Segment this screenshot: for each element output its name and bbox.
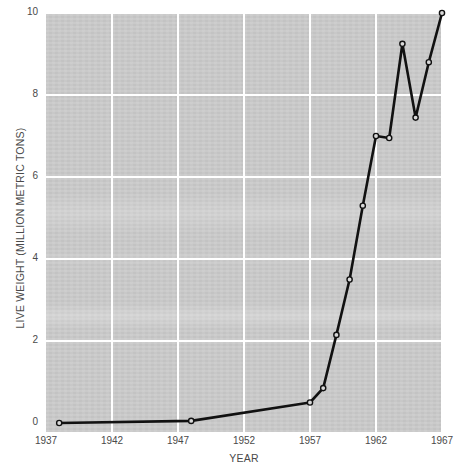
x-tick-label: 1937	[23, 436, 69, 446]
data-point-marker	[321, 386, 326, 391]
x-tick-label: 1967	[419, 436, 455, 446]
chart-figure: 0246810 1937194219471952195719621967 LIV…	[0, 0, 455, 469]
data-point-marker	[413, 115, 418, 120]
data-point-marker	[439, 10, 444, 15]
data-point-marker	[400, 41, 405, 46]
y-axis-label: LIVE WEIGHT (MILLION METRIC TONS)	[14, 118, 26, 338]
data-point-marker	[387, 135, 392, 140]
x-tick-label: 1942	[89, 436, 135, 446]
data-line	[59, 13, 442, 423]
data-point-marker	[189, 418, 194, 423]
chart-svg	[0, 0, 455, 469]
x-tick-label: 1952	[221, 436, 267, 446]
data-markers	[57, 10, 445, 425]
data-point-marker	[360, 203, 365, 208]
y-tick-label: 10	[4, 7, 38, 17]
data-point-marker	[426, 60, 431, 65]
data-point-marker	[334, 332, 339, 337]
data-point-marker	[307, 400, 312, 405]
x-tick-label: 1957	[287, 436, 333, 446]
data-point-marker	[373, 133, 378, 138]
grid-lines	[46, 13, 442, 432]
data-point-marker	[57, 420, 62, 425]
x-axis-label: YEAR	[46, 452, 442, 464]
data-point-marker	[347, 277, 352, 282]
x-tick-label: 1947	[155, 436, 201, 446]
y-tick-label: 0	[4, 417, 38, 427]
y-tick-label: 8	[4, 89, 38, 99]
x-tick-label: 1962	[353, 436, 399, 446]
